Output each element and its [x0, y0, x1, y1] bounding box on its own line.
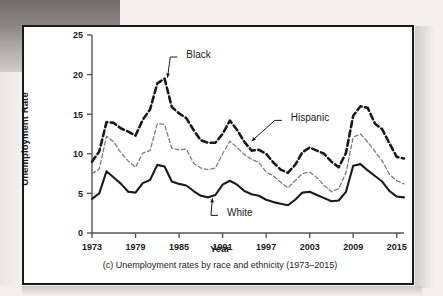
x-axis-title: Year — [24, 243, 416, 254]
y-tick-label: 25 — [73, 30, 83, 40]
plot-area: 0510152025197319791985199119972003200920… — [24, 27, 416, 287]
series-line-black — [92, 79, 404, 173]
y-tick-label: 0 — [78, 228, 83, 238]
scan-edge-shadow-right — [415, 26, 443, 288]
scan-edge-shadow-bottom — [22, 286, 422, 296]
series-annotation-leader — [252, 120, 282, 141]
y-tick-label: 15 — [73, 110, 83, 120]
series-annotation-arrow — [210, 198, 214, 202]
y-axis-title: Unemployment Rate — [19, 69, 30, 209]
series-annotation-label: Hispanic — [291, 112, 329, 123]
y-tick-label: 10 — [73, 149, 83, 159]
series-line-white — [92, 164, 404, 205]
y-tick-label: 20 — [73, 70, 83, 80]
series-line-hispanic — [92, 124, 404, 192]
y-tick-label: 5 — [78, 189, 83, 199]
screenshot-root: 0510152025197319791985199119972003200920… — [0, 0, 443, 296]
figure-panel: 0510152025197319791985199119972003200920… — [22, 25, 414, 285]
series-annotation-label: Black — [186, 49, 211, 60]
series-annotation-label: White — [227, 207, 253, 218]
figure-caption: (c) Unemployment rates by race and ethni… — [24, 260, 416, 270]
